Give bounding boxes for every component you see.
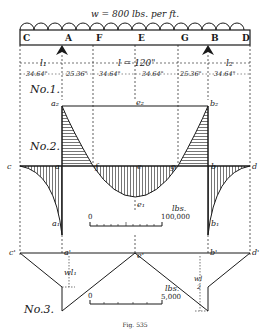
svg-text:l = 120": l = 120"	[118, 58, 155, 68]
support-b-icon	[202, 45, 214, 55]
svg-text:b': b'	[210, 248, 217, 257]
svg-text:a: a	[55, 162, 60, 171]
svg-text:C: C	[23, 33, 30, 43]
svg-text:G: G	[181, 33, 189, 43]
svg-text:b₁: b₁	[211, 219, 219, 228]
load-title: w = 800 lbs. per ft.	[91, 9, 179, 19]
svg-text:wl₁: wl₁	[64, 268, 77, 277]
svg-text:d': d'	[252, 248, 259, 257]
svg-text:c: c	[7, 162, 12, 171]
svg-text:l₂: l₂	[226, 58, 233, 68]
svg-text:0: 0	[88, 292, 92, 300]
svg-text:5,000: 5,000	[161, 293, 181, 301]
svg-text:34.64": 34.64"	[142, 70, 164, 78]
svg-text:B: B	[211, 33, 219, 43]
shear-scale: 0 lbs. 5,000	[88, 284, 181, 304]
svg-text:e₂: e₂	[136, 98, 144, 107]
svg-text:lbs.: lbs.	[165, 284, 179, 293]
svg-text:a₂: a₂	[51, 99, 59, 108]
svg-text:e': e'	[137, 251, 144, 260]
svg-text:wl: wl	[194, 275, 202, 283]
diagram-label-no3: No.3.	[23, 303, 54, 316]
svg-text:lbs.: lbs.	[172, 204, 186, 213]
diagram-label-no1: No.1.	[29, 83, 60, 96]
svg-text:d: d	[252, 162, 257, 171]
figure-caption: Fig. 535	[122, 321, 147, 329]
svg-text:c': c'	[9, 248, 16, 257]
svg-text:b: b	[211, 162, 216, 171]
svg-text:D: D	[242, 33, 250, 43]
svg-text:34.64": 34.64"	[26, 70, 48, 78]
shear-guides	[62, 256, 208, 311]
distributed-load	[20, 23, 244, 30]
svg-text:25.36": 25.36"	[65, 70, 88, 78]
svg-text:E: E	[138, 33, 145, 43]
beam-diagram: w = 800 lbs. per ft. C A F E G B D l₁ l …	[0, 0, 270, 332]
svg-text:2: 2	[196, 283, 201, 290]
svg-text:0: 0	[88, 213, 92, 221]
beam-point-labels: C A F E G B D	[23, 33, 250, 43]
svg-text:100,000: 100,000	[161, 213, 190, 221]
svg-text:l₁: l₁	[40, 58, 47, 68]
svg-text:e₁: e₁	[137, 200, 145, 209]
svg-text:25.36": 25.36"	[179, 70, 202, 78]
svg-text:a': a'	[64, 248, 71, 257]
diagram-label-no2: No.2.	[29, 140, 60, 153]
svg-text:34.64": 34.64"	[214, 70, 236, 78]
svg-text:F: F	[96, 33, 103, 43]
support-a-icon	[56, 45, 68, 55]
svg-text:b₂: b₂	[210, 99, 218, 108]
shear-diagram	[20, 253, 250, 311]
span-dimensions: l₁ l = 120" l₂	[20, 58, 250, 68]
svg-text:A: A	[64, 33, 73, 43]
svg-text:34.64": 34.64"	[99, 70, 121, 78]
svg-text:e: e	[137, 162, 142, 171]
svg-text:a₁: a₁	[52, 219, 60, 228]
svg-text:g: g	[170, 162, 175, 171]
